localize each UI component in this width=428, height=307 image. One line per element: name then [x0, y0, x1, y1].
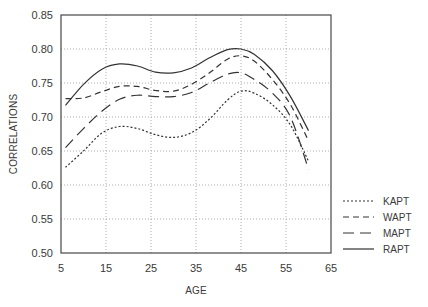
legend: KAPTWAPTMAPTRAPT	[343, 196, 412, 255]
y-tick-label: 0.85	[32, 9, 53, 21]
x-tick-label: 15	[100, 262, 112, 274]
y-tick-label: 0.60	[32, 179, 53, 191]
x-tick-label: 35	[190, 262, 202, 274]
legend-label-wapt: WAPT	[383, 212, 412, 223]
x-tick-label: 45	[235, 262, 247, 274]
x-tick-label: 55	[280, 262, 292, 274]
series-line-kapt	[66, 91, 309, 168]
y-tick-label: 0.75	[32, 77, 53, 89]
y-tick-label: 0.55	[32, 213, 53, 225]
y-tick-label: 0.65	[32, 145, 53, 157]
y-tick-label: 0.50	[32, 247, 53, 259]
x-tick-label: 25	[145, 262, 157, 274]
correlation-chart: 0.500.550.600.650.700.750.800.85 5152535…	[0, 0, 428, 307]
legend-label-rapt: RAPT	[383, 244, 410, 255]
series-line-rapt	[66, 48, 309, 130]
y-tick-label: 0.70	[32, 111, 53, 123]
x-axis-title: AGE	[185, 285, 207, 296]
legend-label-kapt: KAPT	[383, 196, 409, 207]
x-tick-label: 5	[58, 262, 64, 274]
y-tick-label: 0.80	[32, 43, 53, 55]
legend-label-mapt: MAPT	[383, 228, 411, 239]
x-tick-label: 65	[325, 262, 337, 274]
y-axis-ticks: 0.500.550.600.650.700.750.800.85	[32, 9, 53, 259]
x-axis-ticks: 5152535455565	[58, 262, 337, 274]
y-axis-title: CORRELATIONS	[8, 94, 19, 175]
